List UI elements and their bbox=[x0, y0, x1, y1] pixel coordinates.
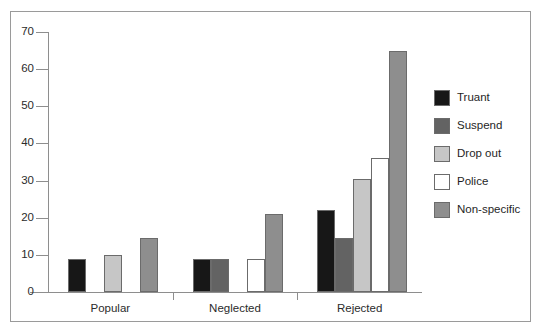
bar-chart-figure: 010203040506070 PopularNeglectedRejected… bbox=[0, 0, 541, 333]
x-axis-line bbox=[30, 292, 422, 293]
x-axis-category-label: Rejected bbox=[297, 303, 422, 315]
y-axis-tick bbox=[36, 106, 48, 107]
legend-item-label: Non-specific bbox=[457, 204, 520, 216]
legend-item: Drop out bbox=[434, 140, 534, 168]
legend-item-label: Suspend bbox=[457, 120, 502, 132]
legend-item: Police bbox=[434, 168, 534, 196]
y-axis-tick-label: 70 bbox=[4, 26, 34, 38]
legend-swatch-icon bbox=[434, 202, 450, 218]
legend-swatch-icon bbox=[434, 118, 450, 134]
y-axis-tick bbox=[36, 143, 48, 144]
legend-item-label: Drop out bbox=[457, 148, 501, 160]
y-axis-tick-label: 10 bbox=[4, 249, 34, 261]
y-axis-tick bbox=[36, 218, 48, 219]
y-axis-label-wrap: 10 bbox=[0, 255, 34, 256]
y-axis-tick bbox=[36, 32, 48, 33]
y-axis-tick-label: 60 bbox=[4, 63, 34, 75]
y-axis-tick bbox=[36, 255, 48, 256]
y-axis-line bbox=[48, 32, 49, 293]
y-axis-tick-label: 0 bbox=[4, 286, 34, 298]
legend-item: Non-specific bbox=[434, 196, 534, 224]
legend-item-label: Truant bbox=[457, 92, 490, 104]
y-axis-label-wrap: 60 bbox=[0, 69, 34, 70]
y-axis-tick-label: 40 bbox=[4, 137, 34, 149]
x-axis-tick bbox=[173, 292, 174, 300]
y-axis-label-wrap: 20 bbox=[0, 218, 34, 219]
y-axis-tick-label: 20 bbox=[4, 212, 34, 224]
legend-swatch-icon bbox=[434, 90, 450, 106]
y-axis-label-wrap: 70 bbox=[0, 32, 34, 33]
x-axis-category-label: Neglected bbox=[173, 303, 298, 315]
y-axis-tick-label: 30 bbox=[4, 175, 34, 187]
y-axis-label-wrap: 50 bbox=[0, 106, 34, 107]
legend-item-label: Police bbox=[457, 176, 488, 188]
x-axis-category-label: Popular bbox=[48, 303, 173, 315]
y-axis-label-wrap: 0 bbox=[0, 292, 34, 293]
y-axis-tick bbox=[36, 292, 48, 293]
x-axis-tick bbox=[297, 292, 298, 300]
legend-swatch-icon bbox=[434, 146, 450, 162]
chart-legend: TruantSuspendDrop outPoliceNon-specific bbox=[434, 84, 534, 224]
y-axis-tick-label: 50 bbox=[4, 100, 34, 112]
y-axis-tick bbox=[36, 69, 48, 70]
legend-swatch-icon bbox=[434, 174, 450, 190]
y-axis-tick bbox=[36, 181, 48, 182]
legend-item: Suspend bbox=[434, 112, 534, 140]
y-axis-label-wrap: 30 bbox=[0, 181, 34, 182]
y-axis-label-wrap: 40 bbox=[0, 143, 34, 144]
legend-item: Truant bbox=[434, 84, 534, 112]
